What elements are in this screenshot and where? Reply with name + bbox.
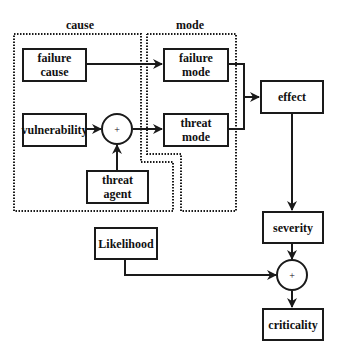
cause-group-label: cause [50, 18, 110, 33]
effect-node: effect [260, 80, 324, 114]
effect-label: effect [278, 90, 306, 104]
failure-mode-line1: failure [179, 51, 213, 65]
plus-operator-threat: + [101, 113, 133, 145]
threat-mode-line1: threat [180, 116, 211, 130]
failure-cause-node: failure cause [22, 48, 87, 82]
criticality-label: criticality [268, 318, 317, 332]
threat-mode-line2: mode [180, 130, 211, 144]
severity-label: severity [273, 221, 313, 235]
criticality-node: criticality [262, 308, 324, 341]
threat-mode-node: threat mode [163, 113, 229, 147]
severity-node: severity [262, 211, 324, 244]
threat-agent-node: threat agent [86, 170, 149, 204]
failure-cause-line1: failure [38, 51, 72, 65]
failure-mode-line2: mode [179, 65, 213, 79]
edge-likelihood-to-plus [125, 259, 276, 275]
likelihood-label: Likelihood [98, 237, 153, 251]
threat-agent-line2: agent [102, 187, 133, 201]
vulnerability-label: vulnerability [22, 123, 88, 137]
likelihood-node: Likelihood [94, 227, 158, 260]
threat-agent-line1: threat [102, 173, 133, 187]
failure-cause-line2: cause [38, 65, 72, 79]
plus-operator-criticality: + [276, 259, 308, 291]
mode-group-label: mode [160, 18, 220, 33]
failure-mode-node: failure mode [163, 48, 229, 82]
plus-symbol: + [289, 270, 295, 281]
vulnerability-node: vulnerability [22, 113, 87, 147]
plus-symbol: + [114, 124, 120, 135]
